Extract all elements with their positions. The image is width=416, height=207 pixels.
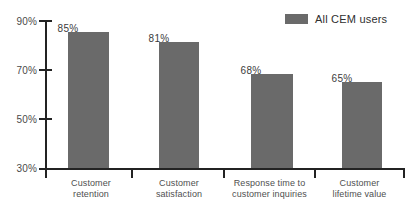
bar-value-response-time: 68% <box>231 65 271 76</box>
category-label-line-2: lifetime value <box>315 189 404 200</box>
category-label-line-1: Customer <box>315 178 404 189</box>
category-label-customer-retention: Customer retention <box>48 178 134 200</box>
category-label-response-time: Response time to customer inquiries <box>224 178 315 200</box>
y-tick-label-90: 90% <box>1 16 37 27</box>
bar-customer-lifetime-value <box>342 82 382 168</box>
bar-chart: All CEM users 90% 70% 50% 30% 85% 81% 68… <box>0 0 416 207</box>
category-label-line-1: Customer <box>48 178 134 189</box>
bar-value-customer-satisfaction: 81% <box>139 33 179 44</box>
x-axis-line <box>45 168 405 170</box>
bar-value-customer-retention: 85% <box>48 23 88 34</box>
category-label-line-2: satisfaction <box>134 189 224 200</box>
y-tick-label-30: 30% <box>1 163 37 174</box>
x-axis-tick-2 <box>223 170 225 178</box>
bar-value-customer-lifetime-value: 65% <box>322 73 362 84</box>
x-axis-tick-0 <box>45 170 47 178</box>
bar-response-time <box>251 74 293 168</box>
category-label-line-1: Customer <box>134 178 224 189</box>
category-label-line-1: Response time to <box>224 178 315 189</box>
x-axis-tick-4 <box>403 170 405 178</box>
y-tick-label-50: 50% <box>1 114 37 125</box>
y-axis-labels: 90% 70% 50% 30% <box>0 0 37 207</box>
x-axis-tick-3 <box>314 170 316 178</box>
plot-area <box>47 20 405 168</box>
y-tick-label-70: 70% <box>1 65 37 76</box>
category-label-customer-satisfaction: Customer satisfaction <box>134 178 224 200</box>
bar-customer-retention <box>68 32 109 168</box>
x-axis-tick-1 <box>131 170 133 178</box>
category-label-customer-lifetime-value: Customer lifetime value <box>315 178 404 200</box>
category-label-line-2: customer inquiries <box>224 189 315 200</box>
bar-customer-satisfaction <box>159 42 199 168</box>
category-label-line-2: retention <box>48 189 134 200</box>
